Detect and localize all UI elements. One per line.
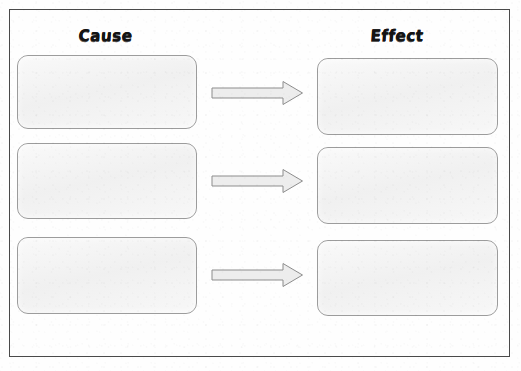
- arrow-right-icon-2: [211, 168, 304, 194]
- effect-box-3[interactable]: [317, 240, 498, 316]
- arrow-right-icon-1: [211, 80, 304, 106]
- effect-box-1[interactable]: [317, 58, 498, 135]
- cause-box-2[interactable]: [17, 143, 197, 219]
- column-heading-cause: Cause: [78, 26, 133, 45]
- cause-box-1[interactable]: [17, 55, 197, 129]
- cause-box-3[interactable]: [17, 237, 197, 314]
- column-heading-effect: Effect: [370, 26, 424, 45]
- effect-box-2[interactable]: [317, 147, 498, 224]
- arrow-right-icon-3: [211, 262, 304, 288]
- cause-effect-worksheet: Cause Effect: [0, 0, 521, 371]
